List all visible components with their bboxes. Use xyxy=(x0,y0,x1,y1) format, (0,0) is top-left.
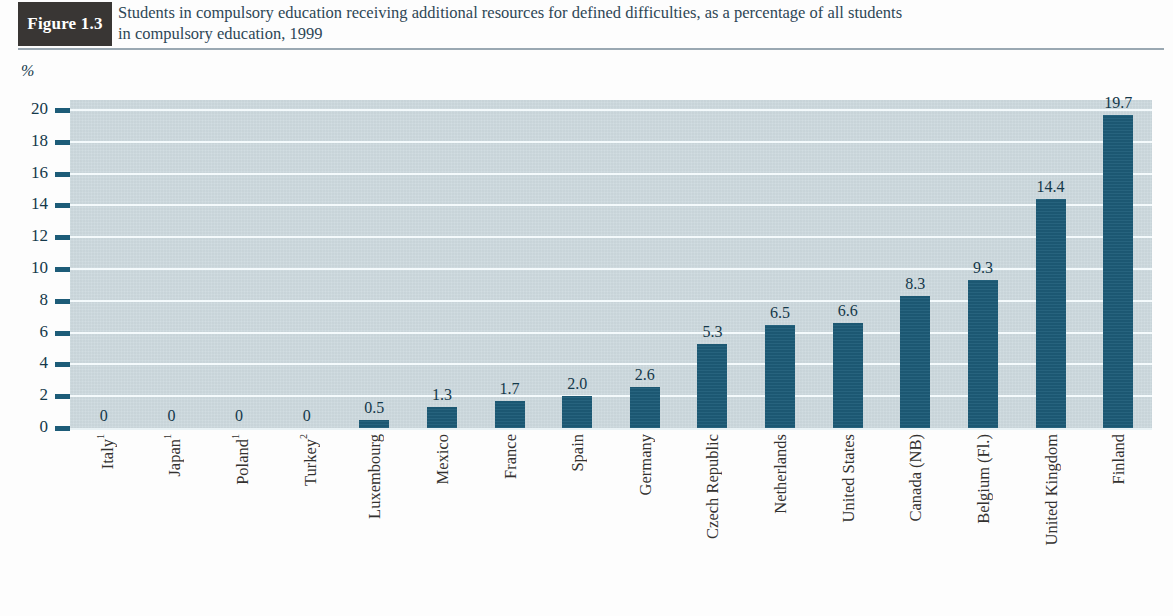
bar-value-label: 0 xyxy=(277,407,337,425)
x-axis-categories: Italy1Japan1Poland1Turkey2LuxembourgMexi… xyxy=(70,434,1152,614)
bar[interactable] xyxy=(495,401,525,428)
y-axis-tick xyxy=(55,426,70,431)
x-axis-category-label: Germany xyxy=(636,434,654,495)
y-axis-tick-label: 18 xyxy=(0,131,48,151)
bar-texture xyxy=(697,344,727,428)
bar-value-label: 2.6 xyxy=(615,366,675,384)
figure-title: Students in compulsory education receivi… xyxy=(118,2,1164,44)
y-axis-tick xyxy=(55,267,70,272)
y-axis-tick-label: 20 xyxy=(0,99,48,119)
y-axis-tick xyxy=(55,362,70,367)
gridline xyxy=(70,204,1152,206)
y-axis-tick xyxy=(55,140,70,145)
bar-texture xyxy=(1103,115,1133,428)
bar-value-label: 5.3 xyxy=(682,323,742,341)
y-axis-tick-label: 0 xyxy=(0,417,48,437)
figure-number-badge: Figure 1.3 xyxy=(18,2,112,46)
y-axis-tick-label: 10 xyxy=(0,258,48,278)
bar-texture xyxy=(427,407,457,428)
y-axis-tick-label: 16 xyxy=(0,163,48,183)
x-axis-category-label: Turkey2 xyxy=(298,434,316,486)
figure-title-line-2: in compulsory education, 1999 xyxy=(118,23,1164,44)
x-axis-category-label: Belgium (Fl.) xyxy=(974,434,992,524)
bar-value-label: 8.3 xyxy=(885,275,945,293)
bar-value-label: 1.3 xyxy=(412,386,472,404)
x-axis-category-label: United Kingdom xyxy=(1042,434,1060,545)
bar-value-label: 6.6 xyxy=(818,302,878,320)
gridline xyxy=(70,173,1152,175)
bar-value-label: 14.4 xyxy=(1021,178,1081,196)
bar-value-label: 6.5 xyxy=(750,304,810,322)
bar-texture xyxy=(495,401,525,428)
figure-header: Figure 1.3 Students in compulsory educat… xyxy=(18,2,1164,48)
bar-texture xyxy=(562,396,592,428)
bar[interactable] xyxy=(1103,115,1133,428)
header-divider xyxy=(18,48,1164,50)
y-axis-tick xyxy=(55,299,70,304)
x-axis-category-label: Japan1 xyxy=(162,434,180,477)
x-axis-category-label: France xyxy=(501,434,519,479)
y-axis-tick xyxy=(55,172,70,177)
bar[interactable] xyxy=(359,420,389,428)
y-axis-tick xyxy=(55,331,70,336)
x-axis-category-label: Italy1 xyxy=(95,434,113,469)
x-axis-category-label: Mexico xyxy=(433,434,451,484)
bar-value-label: 2.0 xyxy=(547,375,607,393)
bar[interactable] xyxy=(765,325,795,428)
y-axis-tick xyxy=(55,108,70,113)
bar-texture xyxy=(630,387,660,428)
x-axis-category-label: Poland1 xyxy=(230,434,248,485)
y-axis-tick-label: 4 xyxy=(0,353,48,373)
bar[interactable] xyxy=(562,396,592,428)
bar[interactable] xyxy=(968,280,998,428)
y-axis-tick-label: 6 xyxy=(0,322,48,342)
x-axis-category-label: Netherlands xyxy=(771,434,789,514)
y-axis-tick xyxy=(55,203,70,208)
bar-value-label: 9.3 xyxy=(953,259,1013,277)
bar[interactable] xyxy=(697,344,727,428)
bar-texture xyxy=(765,325,795,428)
bar[interactable] xyxy=(1036,199,1066,428)
gridline xyxy=(70,141,1152,143)
y-axis-tick-label: 12 xyxy=(0,226,48,246)
bar[interactable] xyxy=(630,387,660,428)
y-axis-tick xyxy=(55,394,70,399)
bar-texture xyxy=(359,420,389,428)
bar-texture xyxy=(900,296,930,428)
x-axis-category-label: Czech Republic xyxy=(703,434,721,539)
x-axis-category-label: Luxembourg xyxy=(365,434,383,519)
bar[interactable] xyxy=(427,407,457,428)
gridline xyxy=(70,109,1152,111)
x-axis-category-label: Canada (NB) xyxy=(906,434,924,522)
figure-page: Figure 1.3 Students in compulsory educat… xyxy=(0,0,1173,616)
y-axis-tick-label: 14 xyxy=(0,194,48,214)
bar[interactable] xyxy=(833,323,863,428)
bar-texture xyxy=(1036,199,1066,428)
bar-texture xyxy=(968,280,998,428)
y-axis-tick-label: 8 xyxy=(0,290,48,310)
bar[interactable] xyxy=(900,296,930,428)
y-axis-tick-label: 2 xyxy=(0,385,48,405)
bar-value-label: 1.7 xyxy=(480,380,540,398)
axis-baseline xyxy=(70,428,1152,430)
bar-value-label: 0 xyxy=(74,407,134,425)
bar-value-label: 0 xyxy=(209,407,269,425)
x-axis-category-label: United States xyxy=(839,434,857,522)
figure-title-line-1: Students in compulsory education receivi… xyxy=(118,3,902,22)
bar-value-label: 0.5 xyxy=(344,399,404,417)
x-axis-category-label: Finland xyxy=(1109,434,1127,484)
x-axis-category-label: Spain xyxy=(568,434,586,472)
y-axis-unit-label: % xyxy=(21,62,34,80)
figure-number-label: Figure 1.3 xyxy=(27,14,102,34)
bar-value-label: 19.7 xyxy=(1088,94,1148,112)
bar-value-label: 0 xyxy=(141,407,201,425)
bar-texture xyxy=(833,323,863,428)
y-axis-tick xyxy=(55,235,70,240)
gridline xyxy=(70,236,1152,238)
